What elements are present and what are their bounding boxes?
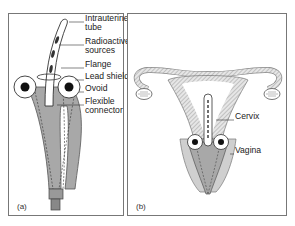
panel-a-applicator: Intrauterine tube Radioactive sources Fl… [8, 13, 124, 216]
label-lead-shield: Lead shield [85, 72, 129, 81]
label-vagina: Vagina [235, 146, 261, 155]
label-intrauterine-tube-2: tube [85, 23, 102, 32]
label-radioactive-sources-2: sources [85, 46, 115, 55]
label-flexible-connector-2: connector [85, 106, 123, 115]
label-flange: Flange [85, 60, 111, 69]
panel-letter-a: (a) [17, 202, 27, 211]
label-cervix: Cervix [235, 112, 259, 121]
label-ovoid: Ovoid [85, 84, 107, 93]
panel-b-in-situ: Cervix Vagina (b) [127, 13, 287, 216]
uterus-illustration [128, 14, 288, 217]
panel-letter-b: (b) [136, 202, 146, 211]
